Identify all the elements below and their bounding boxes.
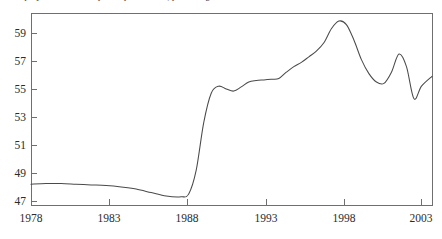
data-series-line <box>31 21 432 197</box>
x-tick-label-1983: 1983 <box>98 212 121 224</box>
line-chart-plot: 59 57 55 53 51 49 47 1978 1983 1988 1993… <box>0 0 442 239</box>
y-tick-label-57: 57 <box>15 55 27 67</box>
y-axis-ticks <box>31 33 37 201</box>
x-tick-label-1993: 1993 <box>255 212 278 224</box>
y-axis-tick-labels: 59 57 55 53 51 49 47 <box>15 27 27 207</box>
x-tick-label-2003: 2003 <box>410 212 433 224</box>
plot-frame <box>31 13 432 205</box>
x-tick-label-1978: 1978 <box>20 212 43 224</box>
x-axis-ticks <box>31 199 421 205</box>
x-tick-label-1988: 1988 <box>176 212 199 224</box>
y-tick-label-59: 59 <box>15 27 27 39</box>
y-tick-label-49: 49 <box>15 167 27 179</box>
y-tick-label-53: 53 <box>15 111 27 123</box>
y-tick-label-47: 47 <box>15 195 27 207</box>
chart-figure: Unemployment rate and participation rate… <box>0 0 442 239</box>
x-axis-tick-labels: 1978 1983 1988 1993 1998 2003 <box>20 212 433 224</box>
x-tick-label-1998: 1998 <box>333 212 356 224</box>
y-tick-label-55: 55 <box>15 83 27 95</box>
y-tick-label-51: 51 <box>15 139 27 151</box>
